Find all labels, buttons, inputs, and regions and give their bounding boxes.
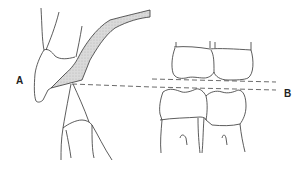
reference-line-a — [72, 84, 152, 87]
panel-label-a: A — [16, 76, 23, 86]
panel-label-b: B — [284, 89, 291, 99]
reference-line-b-upper — [152, 79, 276, 82]
panel-a-lower-tooth — [61, 84, 112, 160]
occlusal-plane-band — [51, 10, 150, 88]
panel-b-upper-teeth — [172, 41, 253, 80]
dental-diagram — [0, 0, 306, 171]
panel-b-lower-teeth — [160, 89, 246, 153]
